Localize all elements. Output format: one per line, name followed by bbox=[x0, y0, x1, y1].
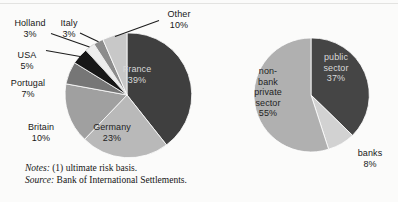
pie-label-holland: Holland 3% bbox=[6, 18, 54, 39]
pie-label-other-value: 10% bbox=[170, 20, 188, 30]
pie-label-banks: banks 8% bbox=[351, 148, 389, 169]
figure-notes-label: Notes: bbox=[25, 163, 50, 173]
pie-label-public-sector: public sector 37% bbox=[315, 52, 357, 84]
figure-source-line: Source: Bank of International Settlement… bbox=[25, 175, 187, 187]
pie-label-banks-name: banks bbox=[358, 148, 383, 158]
pie-label-holland-name: Holland bbox=[14, 18, 45, 28]
pie-label-portugal: Portugal 7% bbox=[2, 78, 54, 99]
pie-label-holland-value: 3% bbox=[23, 29, 36, 39]
pie-label-non-bank-line1: non- bbox=[259, 66, 277, 76]
pie-label-britain: Britain 10% bbox=[17, 122, 65, 143]
pie-label-public-sector-line2: sector bbox=[323, 63, 348, 73]
figure-pie-charts: Holland 3% Italy 3% USA 5% Portugal 7% B… bbox=[0, 0, 398, 202]
pie-label-usa-value: 5% bbox=[20, 61, 33, 71]
pie-label-non-bank-private-sector: non- bank private sector 55% bbox=[245, 66, 291, 119]
figure-source-text: Bank of International Settlements. bbox=[57, 175, 187, 185]
figure-notes-line: Notes: (1) ultimate risk basis. bbox=[25, 163, 137, 175]
pie-label-public-sector-line1: public bbox=[324, 52, 348, 62]
pie-label-britain-value: 10% bbox=[32, 133, 50, 143]
pie-label-france-name: France bbox=[123, 64, 152, 74]
figure-notes-text: (1) ultimate risk basis. bbox=[52, 163, 137, 173]
pie-label-germany-value: 23% bbox=[103, 133, 121, 143]
pie-label-usa-name: USA bbox=[18, 50, 37, 60]
leader-line-usa bbox=[46, 51, 80, 57]
pie-label-non-bank-line4: sector bbox=[255, 98, 280, 108]
pie-label-france: France 39% bbox=[117, 64, 157, 85]
pie-label-germany: Germany 23% bbox=[86, 122, 138, 143]
pie-label-banks-value: 8% bbox=[363, 159, 376, 169]
pie-label-non-bank-value: 55% bbox=[259, 108, 277, 118]
pie-label-portugal-value: 7% bbox=[21, 89, 34, 99]
pie-label-france-value: 39% bbox=[128, 75, 146, 85]
pie-label-other-name: Other bbox=[167, 9, 190, 19]
figure-source-label: Source: bbox=[25, 175, 54, 185]
pie-label-italy: Italy 3% bbox=[53, 18, 85, 39]
pie-label-germany-name: Germany bbox=[93, 122, 131, 132]
pie-label-usa: USA 5% bbox=[8, 50, 46, 71]
pie-label-other: Other 10% bbox=[161, 9, 197, 30]
pie-label-portugal-name: Portugal bbox=[11, 78, 45, 88]
pie-label-britain-name: Britain bbox=[28, 122, 54, 132]
pie-label-non-bank-line3: private bbox=[254, 87, 282, 97]
pie-label-italy-name: Italy bbox=[60, 18, 77, 28]
pie-label-italy-value: 3% bbox=[62, 29, 75, 39]
pie-label-non-bank-line2: bank bbox=[258, 77, 278, 87]
pie-label-public-sector-value: 37% bbox=[327, 73, 345, 83]
